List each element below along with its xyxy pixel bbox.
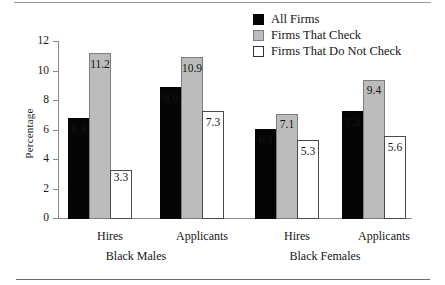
y-tick-label-10: 10 [27,65,49,77]
y-tick-label-0: 0 [27,212,49,224]
x-tick-label-1: Applicants [162,230,242,242]
bar-g1-s0 [160,87,182,219]
bar-value-g1-s1: 10.9 [177,63,207,75]
y-tick-label-8: 8 [27,94,49,106]
y-tick-label-6: 6 [27,124,49,136]
bar-g1-s1 [181,57,203,219]
bar-value-g0-s2: 3.3 [108,172,134,184]
top-divider-rule [14,2,431,3]
legend-swatch-icon-firms-that-check [253,30,264,41]
x-tick-label-2: Hires [257,230,337,242]
bar-value-g0-s1: 11.2 [85,59,115,71]
bar-g0-s1 [89,53,111,219]
y-tick-label-2: 2 [27,183,49,195]
bottom-divider-rule [16,279,430,280]
x-group-label-black-females: Black Females [255,250,395,262]
bar-value-g3-s1: 9.4 [361,85,387,97]
bar-value-g0-s0: 6.8 [66,124,92,136]
x-group-label-black-males: Black Males [66,250,206,262]
legend-label-all-firms: All Firms [271,13,319,26]
y-tick-label-4: 4 [27,153,49,165]
legend-swatch-icon-all-firms [253,14,264,25]
bar-value-g3-s0: 7.3 [340,117,366,129]
x-tick-label-0: Hires [70,230,150,242]
bar-value-g2-s0: 6.1 [253,134,279,146]
bar-chart-figure: All Firms Firms That Check Firms That Do… [0,0,445,285]
plot-area: 6.8 11.2 3.3 8.9 10.9 7.3 6.1 7.1 5.3 7.… [58,41,412,219]
x-tick-label-3: Applicants [344,230,424,242]
bar-value-g2-s2: 5.3 [295,146,321,158]
legend-item-all-firms: All Firms [253,12,401,27]
bar-value-g3-s2: 5.6 [382,142,408,154]
legend-label-firms-that-check: Firms That Check [271,29,361,42]
bar-value-g1-s0: 8.9 [158,93,184,105]
bar-value-g2-s1: 7.1 [274,119,300,131]
y-tick-label-12: 12 [27,35,49,47]
bar-value-g1-s2: 7.3 [200,117,226,129]
